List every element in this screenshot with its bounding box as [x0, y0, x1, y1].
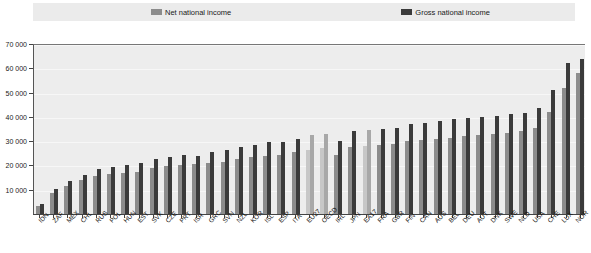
bar-gross-national-income — [182, 155, 186, 215]
bar-gross-national-income — [423, 123, 427, 214]
x-axis-label-slot: FIN — [404, 218, 413, 253]
bar-group — [164, 44, 172, 214]
x-axis-label-slot: FRA — [376, 218, 385, 253]
bar-gross-national-income — [210, 152, 214, 214]
y-axis-tick-label: 70 000 — [6, 41, 27, 48]
bar-group — [235, 44, 243, 214]
y-axis-tick — [29, 93, 33, 94]
chart-legend: Net national income Gross national incom… — [33, 3, 575, 21]
x-axis-label-slot: IDN — [37, 218, 46, 253]
bar-gross-national-income — [452, 119, 456, 214]
bar-gross-national-income — [267, 142, 271, 214]
bar-gross-national-income — [296, 139, 300, 214]
y-axis-tick-label: 60 000 — [6, 65, 27, 72]
bar-group — [107, 44, 115, 214]
x-axis-label-slot: OECD — [320, 218, 329, 253]
bar-gross-national-income — [196, 156, 200, 214]
bar-gross-national-income — [253, 145, 257, 214]
x-axis-label-slot: PRT — [178, 218, 187, 253]
bar-group — [249, 44, 257, 214]
y-axis: 10 00020 00030 00040 00050 00060 00070 0… — [0, 44, 31, 215]
bar-gross-national-income — [239, 147, 243, 214]
bar-gross-national-income — [352, 131, 356, 214]
x-axis-label-slot: LUX — [560, 218, 569, 253]
x-axis-label-slot: SWE — [503, 218, 512, 253]
bar-gross-national-income — [139, 163, 143, 214]
legend-swatch-icon-net — [151, 9, 162, 15]
y-axis-tick-label: 20 000 — [6, 162, 27, 169]
bar-group — [491, 44, 499, 214]
bar-gross-national-income — [537, 108, 541, 214]
legend-entry-net-national-income: Net national income — [151, 8, 231, 17]
y-axis-tick — [29, 141, 33, 142]
bar-gross-national-income — [551, 90, 555, 214]
bar-group — [50, 44, 58, 214]
x-axis-label-slot: EA17 — [362, 218, 371, 253]
bar-group — [192, 44, 200, 214]
bar-gross-national-income — [168, 157, 172, 214]
x-axis-label-slot: BEL — [447, 218, 456, 253]
x-axis-label-slot: MEX — [65, 218, 74, 253]
bar-gross-national-income — [466, 118, 470, 214]
bar-group — [348, 44, 356, 214]
x-axis-label-slot: CHE — [546, 218, 555, 253]
bar-gross-national-income — [495, 116, 499, 214]
x-axis-label-slot: AUT — [475, 218, 484, 253]
bar-gross-national-income — [438, 121, 442, 215]
bar-group — [462, 44, 470, 214]
bar-gross-national-income — [111, 167, 115, 214]
x-axis-label-slot: AUS — [433, 218, 442, 253]
bar-group — [363, 44, 371, 214]
bar-group — [93, 44, 101, 214]
bar-group — [206, 44, 214, 214]
bar-group — [505, 44, 513, 214]
bar-gross-national-income — [281, 142, 285, 214]
bar-group — [79, 44, 87, 214]
x-axis-label-slot: GRC — [207, 218, 216, 253]
bar-group — [434, 44, 442, 214]
x-axis-labels: IDNZAFMEXCHLRUSPOLHUNESTSVKCZEPRTISRGRCS… — [34, 218, 585, 253]
bar-gross-national-income — [83, 175, 87, 214]
x-axis-label-slot: SVN — [221, 218, 230, 253]
bar-group — [221, 44, 229, 214]
bar-gross-national-income — [68, 181, 72, 214]
bar-gross-national-income — [480, 117, 484, 214]
bar-group — [306, 44, 314, 214]
bar-group — [150, 44, 158, 214]
y-axis-tick-label: 10 000 — [6, 186, 27, 193]
bar-group — [533, 44, 541, 214]
chart-bars — [34, 44, 585, 214]
x-axis-label-slot: NLD — [517, 218, 526, 253]
x-axis-label-slot: POL — [108, 218, 117, 253]
bar-gross-national-income — [54, 189, 58, 214]
y-axis-tick — [29, 117, 33, 118]
bar-group — [419, 44, 427, 214]
y-axis-tick — [29, 44, 33, 45]
x-axis-label-slot: ITA — [291, 218, 300, 253]
bar-group — [277, 44, 285, 214]
legend-entry-gross-national-income: Gross national income — [401, 8, 490, 17]
x-axis-label-slot: DEU — [461, 218, 470, 253]
bar-group — [178, 44, 186, 214]
x-axis-label-slot: JPN — [348, 218, 357, 253]
bar-group — [36, 44, 44, 214]
bar-group — [576, 44, 584, 214]
bar-group — [121, 44, 129, 214]
y-axis-tick — [29, 68, 33, 69]
bar-group — [334, 44, 342, 214]
bar-gross-national-income — [566, 63, 570, 214]
legend-swatch-icon-gross — [401, 9, 412, 15]
bar-group — [263, 44, 271, 214]
bar-group — [562, 44, 570, 214]
bar-group — [391, 44, 399, 214]
bar-gross-national-income — [509, 114, 513, 214]
x-axis-label-slot: ZAF — [51, 218, 60, 253]
bar-gross-national-income — [523, 113, 527, 214]
x-axis-label-slot: CZE — [164, 218, 173, 253]
bar-group — [292, 44, 300, 214]
bar-gross-national-income — [338, 141, 342, 214]
x-axis-label-slot: USA — [531, 218, 540, 253]
bar-group — [448, 44, 456, 214]
y-axis-tick-label: 30 000 — [6, 138, 27, 145]
x-axis-label-slot: NZL — [235, 218, 244, 253]
